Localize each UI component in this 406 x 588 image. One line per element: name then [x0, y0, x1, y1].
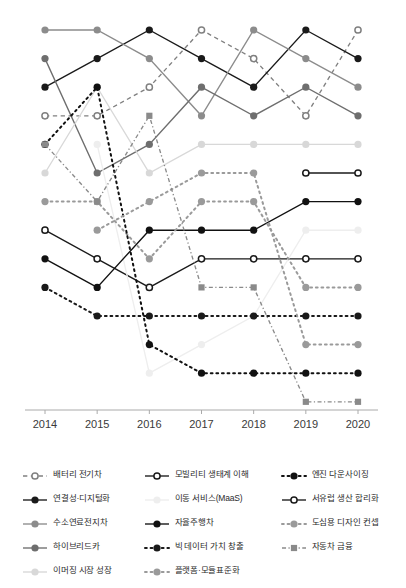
data-point: [94, 169, 101, 176]
data-point: [94, 256, 100, 262]
series-line: [41, 198, 361, 291]
legend-item[interactable]: 자율주행차: [144, 510, 277, 534]
series-line: [42, 27, 361, 119]
legend-item-label: 엔진 다운사이징: [312, 470, 369, 479]
data-point: [302, 370, 309, 377]
legend-swatch-icon: [281, 540, 307, 552]
legend-item[interactable]: 수소연료전지차: [22, 510, 134, 534]
data-point: [354, 84, 361, 91]
data-point: [41, 255, 48, 262]
data-point: [94, 26, 101, 33]
series-line: [41, 198, 361, 291]
legend-item[interactable]: 서유럽 생산 합리화: [281, 486, 398, 510]
data-point: [250, 26, 257, 33]
legend-item[interactable]: 하이브리드카: [22, 534, 134, 558]
axis-tick-label: 2015: [85, 418, 109, 430]
data-point: [42, 113, 48, 119]
series-line: [41, 26, 361, 90]
data-point: [146, 255, 153, 262]
data-point: [41, 169, 48, 176]
legend-item[interactable]: 플랫폼·모듈표준화: [144, 558, 277, 582]
data-point: [198, 284, 204, 290]
data-point: [94, 113, 100, 119]
legend-item[interactable]: 연결성·디지털화: [22, 486, 134, 510]
legend-item[interactable]: 빅 데이터 가치 창출: [144, 534, 277, 558]
legend-item-label: 모빌리티 생태계 이해: [175, 470, 250, 479]
data-point: [146, 169, 153, 176]
series-line: [41, 26, 361, 119]
data-point: [146, 370, 153, 377]
axis-tick-label: 2014: [33, 418, 57, 430]
legend-item-label: 수소연료전지차: [53, 518, 108, 527]
data-point: [198, 198, 205, 205]
legend-swatch-icon: [22, 468, 48, 480]
data-point: [250, 312, 257, 319]
data-point: [198, 141, 205, 148]
data-point: [146, 113, 152, 119]
data-point: [198, 55, 205, 62]
legend-swatch-icon: [144, 516, 170, 528]
data-point: [354, 284, 361, 291]
data-point: [354, 341, 361, 348]
legend-item-label: 도심용 디자인 컨셉: [312, 518, 379, 527]
data-point: [251, 256, 257, 262]
legend-column: 배터리 전기차연결성·디지털화수소연료전지차하이브리드카이머징 시장 성장: [8, 462, 134, 582]
legend-item[interactable]: 이머징 시장 성장: [22, 558, 134, 582]
data-point: [354, 227, 361, 234]
legend-swatch-icon: [144, 540, 170, 552]
legend-swatch-icon: [22, 516, 48, 528]
data-point: [41, 84, 48, 91]
data-point: [198, 312, 205, 319]
data-point: [250, 198, 257, 205]
data-point: [41, 26, 48, 33]
data-point: [94, 284, 101, 291]
data-point: [354, 141, 361, 148]
legend-column: 엔진 다운사이징서유럽 생산 합리화도심용 디자인 컨셉자동차 금융: [277, 462, 398, 582]
legend-swatch-icon: [281, 468, 307, 480]
legend-swatch-icon: [281, 516, 307, 528]
data-point: [198, 370, 205, 377]
data-point: [250, 169, 257, 176]
data-point: [302, 312, 309, 319]
axis-tick-label: 2020: [346, 418, 370, 430]
data-point: [146, 312, 153, 319]
data-point: [94, 141, 101, 148]
data-point: [42, 141, 48, 147]
data-point: [354, 312, 361, 319]
legend-item-label: 빅 데이터 가치 창출: [175, 542, 244, 551]
data-point: [146, 341, 153, 348]
data-point: [250, 227, 257, 234]
legend-item[interactable]: 엔진 다운사이징: [281, 462, 398, 486]
series-line: [303, 170, 361, 176]
axis-tick-label: 2019: [294, 418, 318, 430]
data-point: [302, 198, 309, 205]
axis-tick-label: 2016: [137, 418, 161, 430]
data-point: [355, 399, 361, 405]
legend-column: 모빌리티 생태계 이해이동 서비스(MaaS)자율주행차빅 데이터 가치 창출플…: [134, 462, 277, 582]
legend-item[interactable]: 자동차 금융: [281, 534, 398, 558]
data-point: [302, 26, 309, 33]
legend-item-label: 자율주행차: [175, 518, 214, 527]
data-point: [303, 170, 309, 176]
series-line: [42, 227, 361, 290]
data-point: [146, 55, 153, 62]
legend-item[interactable]: 도심용 디자인 컨셉: [281, 510, 398, 534]
legend-item[interactable]: 이동 서비스(MaaS): [144, 486, 277, 510]
data-point: [42, 227, 48, 233]
data-point: [94, 84, 101, 91]
legend-item-label: 서유럽 생산 합리화: [312, 494, 379, 503]
data-point: [354, 370, 361, 377]
data-point: [94, 227, 101, 234]
data-point: [250, 84, 257, 91]
data-point: [355, 27, 361, 33]
data-point: [251, 56, 257, 62]
legend-item[interactable]: 배터리 전기차: [22, 462, 134, 486]
legend-swatch-icon: [22, 540, 48, 552]
data-point: [94, 199, 100, 205]
legend-item[interactable]: 모빌리티 생태계 이해: [144, 462, 277, 486]
legend-item-label: 이동 서비스(MaaS): [175, 494, 243, 503]
legend-item-label: 자동차 금융: [312, 542, 353, 551]
data-point: [251, 284, 257, 290]
chart-page: 2014201520162017201820192020 배터리 전기차연결성·…: [0, 0, 406, 588]
axis-tick-label: 2018: [241, 418, 265, 430]
